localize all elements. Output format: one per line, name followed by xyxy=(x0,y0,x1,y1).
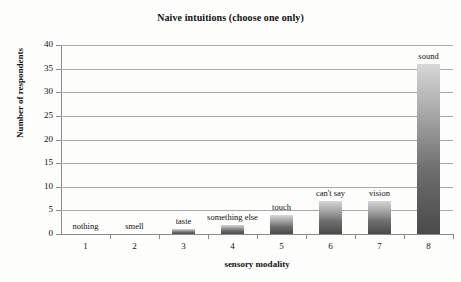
gridline xyxy=(61,92,453,93)
y-axis-tick-label: 25 xyxy=(11,110,53,120)
x-axis-tick xyxy=(159,234,160,239)
x-axis-title: sensory modality xyxy=(61,259,453,269)
bar xyxy=(270,215,293,234)
y-axis-tick-label: 35 xyxy=(11,63,53,73)
gridline xyxy=(61,163,453,164)
x-axis-tick-label: 2 xyxy=(115,241,155,251)
y-axis-tick-label: 5 xyxy=(11,204,53,214)
x-axis-tick xyxy=(306,234,307,239)
plot-area: nothingsmelltastesomething elsetouchcan'… xyxy=(61,45,453,234)
x-axis-tick xyxy=(355,234,356,239)
bar xyxy=(319,201,342,234)
bar xyxy=(417,64,440,234)
chart-title: Naive intuitions (choose one only) xyxy=(0,12,461,23)
gridline xyxy=(61,45,453,46)
x-axis-tick-label: 3 xyxy=(164,241,204,251)
x-axis-tick xyxy=(453,234,454,239)
x-axis-tick-label: 5 xyxy=(262,241,302,251)
x-axis-tick-label: 6 xyxy=(311,241,351,251)
x-axis-tick-label: 8 xyxy=(409,241,449,251)
y-axis-tick-label: 20 xyxy=(11,134,53,144)
y-axis-tick-label: 10 xyxy=(11,181,53,191)
x-axis-tick-label: 1 xyxy=(66,241,106,251)
x-axis-tick xyxy=(110,234,111,239)
bar xyxy=(172,229,195,234)
x-axis-tick-label: 7 xyxy=(360,241,400,251)
x-axis-tick xyxy=(257,234,258,239)
gridline xyxy=(61,69,453,70)
x-axis-tick xyxy=(404,234,405,239)
gridline xyxy=(61,116,453,117)
bar-chart: Naive intuitions (choose one only) Numbe… xyxy=(0,0,461,282)
x-axis-tick xyxy=(208,234,209,239)
x-axis-tick-label: 4 xyxy=(213,241,253,251)
bar xyxy=(368,201,391,234)
bar xyxy=(221,225,244,234)
y-axis-tick-label: 15 xyxy=(11,157,53,167)
y-axis-tick-label: 40 xyxy=(11,39,53,49)
bar-value-label: sound xyxy=(369,51,461,61)
y-axis-tick-label: 30 xyxy=(11,86,53,96)
gridline xyxy=(61,140,453,141)
